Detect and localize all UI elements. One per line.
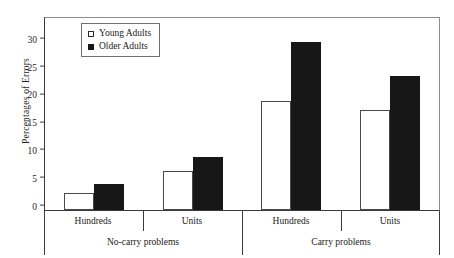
bar-chart-figure: Percentages of Errors 30 25 20 15 10 5 0… bbox=[0, 0, 454, 258]
y-tick-0: 0 bbox=[19, 200, 45, 211]
x-sublabel-nocarry-units: Units bbox=[182, 216, 203, 226]
bar-older-adults-1 bbox=[193, 157, 223, 210]
x-group-tick bbox=[242, 231, 243, 255]
x-sublabel-carry-hundreds: Hundreds bbox=[273, 216, 310, 226]
legend-item-young-adults: Young Adults bbox=[88, 27, 151, 40]
x-group-label-no-carry-problems: No-carry problems bbox=[107, 237, 179, 247]
x-group-tick bbox=[439, 231, 440, 255]
y-tick-10: 10 bbox=[19, 145, 45, 156]
bar-older-adults-3 bbox=[390, 76, 420, 210]
chart-legend: Young Adults Older Adults bbox=[81, 23, 160, 57]
legend-label-young-adults: Young Adults bbox=[99, 27, 151, 40]
x-sublabel-carry-units: Units bbox=[380, 216, 401, 226]
bar-young-adults-1 bbox=[163, 171, 193, 211]
open-square-icon bbox=[88, 31, 94, 37]
y-tick-5: 5 bbox=[19, 173, 45, 184]
y-tick-25: 25 bbox=[19, 61, 45, 72]
x-subtick bbox=[44, 211, 45, 231]
x-group-label-carry-problems: Carry problems bbox=[311, 237, 370, 247]
x-axis: Hundreds Units Hundreds Units No-carry p… bbox=[44, 211, 440, 258]
x-sublabel-nocarry-hundreds: Hundreds bbox=[75, 216, 112, 226]
bar-older-adults-0 bbox=[94, 184, 124, 210]
x-subtick bbox=[341, 211, 342, 231]
filled-square-icon bbox=[88, 44, 94, 50]
x-subtick bbox=[143, 211, 144, 231]
plot-area: 30 25 20 15 10 5 0 Young Adults bbox=[44, 17, 440, 211]
y-tick-15: 15 bbox=[19, 117, 45, 128]
bar-older-adults-2 bbox=[291, 42, 321, 210]
x-group-tick bbox=[44, 231, 45, 255]
x-subtick bbox=[242, 211, 243, 231]
bar-young-adults-2 bbox=[261, 101, 291, 210]
legend-item-older-adults: Older Adults bbox=[88, 40, 151, 53]
bar-young-adults-0 bbox=[64, 193, 94, 210]
bar-young-adults-3 bbox=[360, 110, 390, 210]
y-tick-30: 30 bbox=[19, 33, 45, 44]
y-tick-20: 20 bbox=[19, 89, 45, 100]
legend-label-older-adults: Older Adults bbox=[99, 40, 148, 53]
x-subtick bbox=[439, 211, 440, 231]
